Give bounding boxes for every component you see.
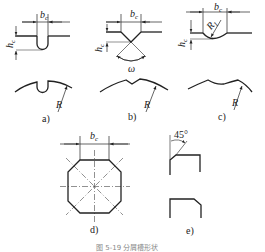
dim-hc-a: hc	[4, 39, 17, 48]
dim-R-a: R	[55, 99, 62, 110]
dim-bc-a: bc	[40, 9, 49, 22]
dim-omega-b: ω	[128, 63, 135, 74]
dim-R-b: R	[143, 99, 150, 110]
panel-a	[15, 14, 72, 112]
figure-caption: 图 5-19 分屑槽形状	[96, 243, 158, 252]
panel-e	[170, 135, 201, 218]
label-b: b)	[128, 111, 136, 123]
label-e: e)	[186, 225, 194, 237]
label-a: a)	[42, 113, 50, 125]
dim-hc-c: hc	[176, 38, 189, 47]
dim-R1-c: R1	[203, 17, 220, 33]
label-d: d)	[90, 224, 98, 236]
dim-hc-b: hc	[93, 43, 106, 52]
panel-d	[60, 136, 130, 222]
panel-c	[186, 8, 252, 110]
dim-bc-b: bc	[130, 8, 139, 21]
dim-R-c: R	[231, 97, 238, 108]
label-c: c)	[218, 111, 226, 123]
figure-canvas: bc hc R a) bc hc ω R b)	[0, 0, 265, 252]
dim-45deg-e: 45°	[174, 129, 188, 140]
dim-bc-d: bc	[90, 130, 99, 143]
